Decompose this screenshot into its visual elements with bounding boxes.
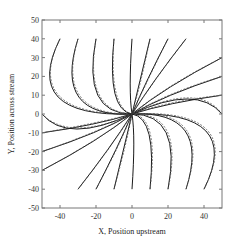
- dashed-streamline: [132, 114, 152, 189]
- y-tick-label: -30: [28, 166, 39, 175]
- x-tick-label: 0: [130, 212, 134, 221]
- solid-streamline: [112, 39, 132, 114]
- solid-streamline: [72, 39, 132, 114]
- y-tick-label: 40: [31, 35, 39, 44]
- curves-group: [42, 39, 222, 189]
- dashed-streamline: [132, 114, 172, 189]
- y-tick-label: 10: [31, 91, 39, 100]
- solid-streamline: [132, 114, 152, 189]
- streamline-chart: -40-2002040 -50-40-30-20-1001020304050 X…: [0, 0, 238, 245]
- dashed-streamline: [42, 114, 132, 170]
- x-axis-label: X, Position upstream: [98, 227, 166, 236]
- y-tick-label: 0: [35, 110, 39, 119]
- dashed-streamline: [42, 114, 132, 133]
- solid-streamline: [42, 114, 132, 133]
- x-tick-label: 40: [200, 212, 208, 221]
- x-tick-label: -40: [55, 212, 66, 221]
- y-tick-label: -20: [28, 148, 39, 157]
- solid-streamline: [132, 58, 222, 114]
- solid-streamline: [132, 114, 134, 189]
- solid-streamline: [130, 39, 132, 114]
- y-tick-label: 20: [31, 72, 39, 81]
- y-tick-label: 30: [31, 54, 39, 63]
- x-tick-label: -20: [91, 212, 102, 221]
- x-tick-label: 20: [164, 212, 172, 221]
- dashed-streamline: [132, 58, 222, 114]
- y-tick-label: 50: [31, 16, 39, 25]
- solid-streamline: [42, 114, 132, 170]
- solid-streamline: [132, 95, 222, 114]
- y-tick-label: -10: [28, 129, 39, 138]
- y-tick-label: -40: [28, 185, 39, 194]
- dashed-streamline: [132, 114, 193, 190]
- dashed-streamline: [132, 95, 222, 114]
- dashed-streamline: [113, 39, 132, 114]
- y-tick-label: -50: [28, 204, 39, 213]
- solid-streamline: [132, 114, 192, 189]
- y-axis-label: Y, Position across stream: [7, 73, 16, 154]
- dashed-streamline: [132, 114, 215, 190]
